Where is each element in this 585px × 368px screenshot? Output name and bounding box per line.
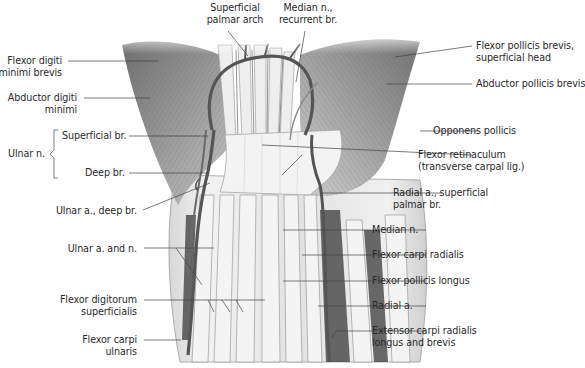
label-line: longus and brevis (372, 337, 477, 349)
label-line: Ulnar a. and n. (68, 243, 137, 255)
label-extensor-carpi-radialis-longus-brevis: Extensor carpi radialis longus and brevi… (372, 325, 477, 348)
label-line: Median n., (268, 2, 348, 14)
label-deep-br: Deep br. (85, 167, 125, 179)
label-line: minimi (8, 104, 77, 116)
label-line: Extensor carpi radialis (372, 325, 477, 337)
label-median-n: Median n. (372, 224, 418, 236)
label-superficial-palmar-arch: Superficial palmar arch (195, 2, 275, 25)
label-line: superficialis (60, 306, 137, 318)
label-line: Ulnar a., deep br. (56, 205, 137, 217)
label-line: Flexor carpi (82, 334, 137, 346)
label-line: palmar arch (195, 14, 275, 26)
label-opponens-pollicis: Opponens pollicis (433, 125, 516, 137)
label-line: Abductor pollicis brevis (476, 78, 585, 90)
label-flexor-digitorum-superficialis: Flexor digitorum superficialis (60, 294, 137, 317)
label-median-n-recurrent-br: Median n., recurrent br. (268, 2, 348, 25)
label-flexor-retinaculum: Flexor retinaculum (transverse carpal li… (418, 149, 524, 172)
label-abductor-digiti-minimi: Abductor digiti minimi (8, 92, 77, 115)
label-line: Radial a., superficial (393, 187, 488, 199)
label-line: Radial a. (372, 300, 413, 312)
label-line: superficial head (476, 52, 574, 64)
label-flexor-pollicis-longus: Flexor pollicis longus (372, 275, 470, 287)
label-line: palmar br. (393, 199, 488, 211)
label-abductor-pollicis-brevis: Abductor pollicis brevis (476, 78, 585, 90)
label-line: Flexor digitorum (60, 294, 137, 306)
label-superficial-br: Superficial br. (62, 130, 126, 142)
label-flexor-carpi-ulnaris: Flexor carpi ulnaris (82, 334, 137, 357)
label-ulnar-n: Ulnar n. (8, 148, 45, 160)
label-line: Flexor digiti (0, 55, 62, 67)
label-flexor-digiti-minimi-brevis: Flexor digiti minimi brevis (0, 55, 62, 78)
label-flexor-carpi-radialis: Flexor carpi radialis (372, 249, 464, 261)
label-radial-a: Radial a. (372, 300, 413, 312)
label-line: Flexor carpi radialis (372, 249, 464, 261)
label-line: Abductor digiti (8, 92, 77, 104)
label-line: minimi brevis (0, 67, 62, 79)
label-line: recurrent br. (268, 14, 348, 26)
label-line: Superficial br. (62, 130, 126, 142)
label-radial-a-superficial-palmar-br: Radial a., superficial palmar br. (393, 187, 488, 210)
label-line: Deep br. (85, 167, 125, 179)
label-line: Flexor retinaculum (418, 149, 524, 161)
label-ulnar-a-and-n: Ulnar a. and n. (68, 243, 137, 255)
label-line: Median n. (372, 224, 418, 236)
label-line: Superficial (195, 2, 275, 14)
label-line: (transverse carpal lig.) (418, 161, 524, 173)
label-line: Flexor pollicis brevis, (476, 40, 574, 52)
label-line: Opponens pollicis (433, 125, 516, 137)
label-flexor-pollicis-brevis-superficial-head: Flexor pollicis brevis, superficial head (476, 40, 574, 63)
label-line: Ulnar n. (8, 148, 45, 159)
label-line: Flexor pollicis longus (372, 275, 470, 287)
label-ulnar-a-deep-br: Ulnar a., deep br. (56, 205, 137, 217)
label-line: ulnaris (82, 346, 137, 358)
